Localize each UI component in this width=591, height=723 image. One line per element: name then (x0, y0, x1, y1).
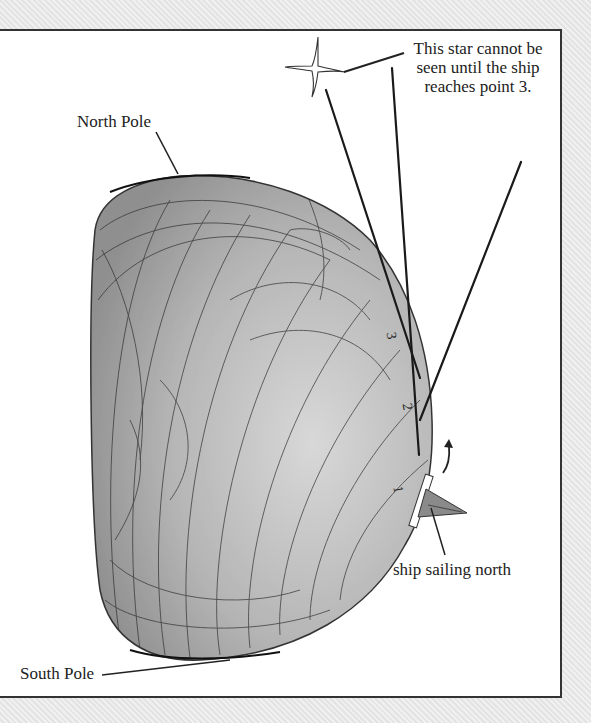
south-pole-leader (102, 660, 230, 675)
north-pole-label: North Pole (77, 112, 151, 131)
north-pole-leader (156, 132, 178, 174)
globe (91, 175, 432, 660)
curved-arrow-icon (443, 439, 453, 473)
south-pole-label: South Pole (20, 664, 94, 683)
star-leader-line (344, 53, 404, 72)
diagram-canvas: 3 2 1 (0, 0, 591, 723)
star-annotation: This star cannot be seen until the ship … (398, 39, 558, 96)
star-icon (285, 37, 345, 97)
ship-label: ship sailing north (393, 560, 511, 579)
sight-line-point-1 (420, 162, 521, 420)
